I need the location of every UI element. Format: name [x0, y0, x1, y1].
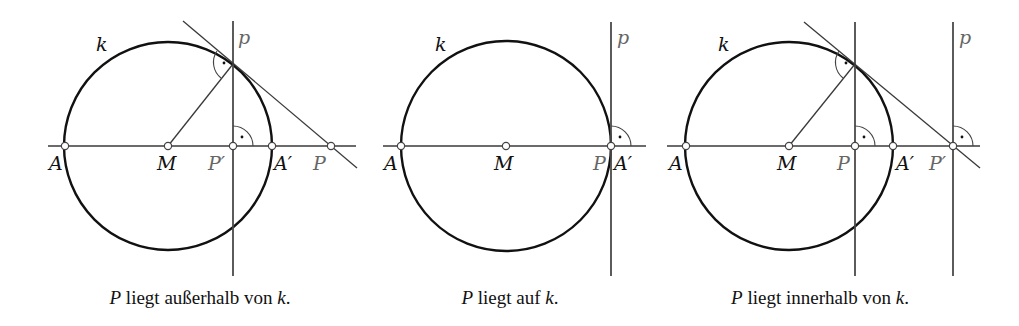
point-P-prime: [949, 142, 956, 149]
label-P-prime: P′: [207, 152, 226, 174]
point-M: [785, 142, 792, 149]
label-P: P: [312, 152, 327, 174]
right-angle-dot: [961, 136, 964, 139]
radius-line: [789, 64, 855, 146]
point-A: [682, 142, 689, 149]
label-P-prime: P′: [928, 152, 947, 174]
label-A-prime: A′: [272, 152, 293, 174]
point-A: [61, 142, 68, 149]
point-P-prime: [229, 142, 236, 149]
point-P: [327, 142, 334, 149]
inversion-figure: k p A M P′ A′ P P liegt außerhalb von k.…: [0, 0, 1019, 326]
caption-outside: P liegt außerhalb von k.: [109, 287, 291, 308]
label-p: p: [238, 26, 250, 48]
point-M: [502, 142, 509, 149]
point-P: [607, 142, 614, 149]
right-angle-arc-P-prime: [953, 126, 973, 146]
label-P: P: [592, 152, 607, 174]
label-A: A: [667, 152, 683, 174]
label-k: k: [96, 33, 108, 55]
caption-inside: P liegt innerhalb von k.: [730, 287, 909, 308]
panel-outside: k p A M P′ A′ P P liegt außerhalb von k.: [47, 21, 357, 308]
label-M: M: [493, 152, 514, 174]
right-angle-dot: [863, 136, 866, 139]
right-angle-arc-P: [855, 126, 875, 146]
right-angle-dot: [619, 136, 622, 139]
label-k: k: [718, 33, 730, 55]
label-M: M: [156, 152, 177, 174]
label-A-prime: A′: [612, 152, 633, 174]
label-p: p: [617, 26, 629, 48]
label-p: p: [959, 26, 971, 48]
right-angle-arc-foot: [233, 126, 253, 146]
radius-line: [168, 64, 233, 146]
panel-inside: k p A M P A′ P′ P liegt innerhalb von k.: [667, 22, 980, 308]
label-A-prime: A′: [894, 152, 915, 174]
point-A-prime: [268, 142, 275, 149]
point-A: [397, 142, 404, 149]
label-A: A: [47, 152, 63, 174]
right-angle-dot: [223, 62, 226, 65]
panel-on: k p A M P A′ P liegt auf k.: [382, 22, 646, 308]
point-M: [164, 142, 171, 149]
caption-on: P liegt auf k.: [460, 287, 558, 308]
right-angle-arc: [611, 126, 631, 146]
point-P: [851, 142, 858, 149]
label-P: P: [836, 152, 851, 174]
right-angle-dot: [845, 62, 848, 65]
label-M: M: [776, 152, 797, 174]
point-A-prime: [889, 142, 896, 149]
right-angle-dot: [241, 136, 244, 139]
label-A: A: [382, 152, 398, 174]
label-k: k: [435, 33, 447, 55]
